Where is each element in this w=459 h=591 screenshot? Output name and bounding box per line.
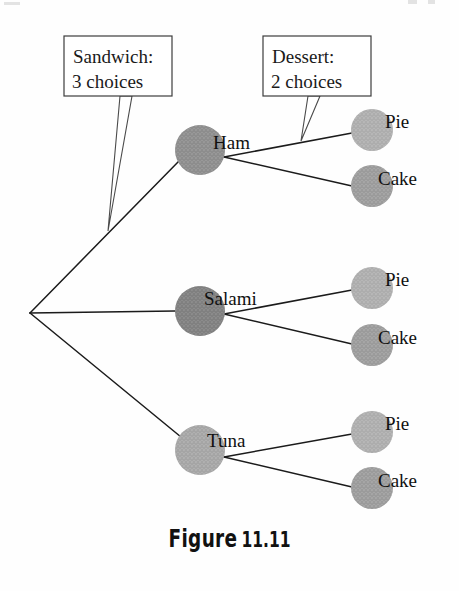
edge-root-ham — [30, 161, 179, 313]
node-salami[interactable]: Salami — [175, 286, 257, 336]
scan-speck-top-left — [4, 2, 20, 5]
scan-speck-top-right-b — [428, 0, 435, 4]
figure-caption-prefix: Figure — [169, 524, 238, 553]
dessert-callout-line1: Dessert: — [272, 46, 334, 67]
node-tuna-label: Tuna — [207, 430, 246, 451]
sandwich-callout-pointer — [108, 96, 132, 231]
node-salami-pie-label: Pie — [385, 269, 409, 290]
edge-tuna-cake — [224, 457, 352, 487]
edges-root-to-sandwiches — [30, 161, 181, 437]
node-ham-pie[interactable]: Pie — [351, 109, 409, 151]
node-tuna-pie[interactable]: Pie — [351, 411, 409, 453]
node-salami-label: Salami — [204, 288, 257, 309]
sandwich-callout-line2: 3 choices — [72, 71, 143, 92]
node-ham-label: Ham — [213, 132, 250, 153]
node-ham-pie-label: Pie — [385, 111, 409, 132]
edge-root-tuna — [30, 313, 181, 437]
figure-container: Ham Salami Tuna Pie C — [0, 0, 459, 591]
node-salami-cake-label: Cake — [378, 327, 417, 348]
node-tuna[interactable]: Tuna — [175, 425, 246, 475]
figure-caption-number: 11.11 — [237, 528, 290, 552]
level2-nodes: Pie Cake Pie Cake Pie — [351, 109, 417, 509]
tree-diagram-svg: Ham Salami Tuna Pie C — [0, 0, 459, 591]
edge-ham-cake — [224, 157, 352, 186]
figure-caption: Figure11.11 — [41, 524, 417, 553]
node-ham-cake[interactable]: Cake — [351, 165, 417, 207]
edge-root-salami — [30, 311, 175, 313]
node-ham-cake-label: Cake — [378, 168, 417, 189]
scan-speck-top-right-a — [408, 0, 417, 4]
node-tuna-cake-label: Cake — [378, 470, 417, 491]
dessert-callout-line2: 2 choices — [271, 71, 342, 92]
node-salami-pie[interactable]: Pie — [351, 267, 409, 309]
sandwich-callout: Sandwich: 3 choices — [64, 36, 172, 231]
dessert-callout-pointer — [301, 96, 320, 141]
node-ham[interactable]: Ham — [175, 125, 250, 175]
sandwich-callout-line1: Sandwich: — [73, 46, 153, 67]
node-tuna-pie-label: Pie — [385, 413, 409, 434]
node-salami-cake[interactable]: Cake — [351, 324, 417, 366]
level1-nodes: Ham Salami Tuna — [175, 125, 257, 475]
node-tuna-cake[interactable]: Cake — [351, 467, 417, 509]
edge-salami-cake — [224, 314, 352, 344]
